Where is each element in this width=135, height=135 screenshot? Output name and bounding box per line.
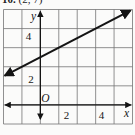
y-axis-label: y bbox=[30, 10, 37, 23]
textbook-figure: 10. (2, 7) y x O 4 2 2 4 bbox=[0, 0, 135, 135]
coordinate-grid-graph: y x O 4 2 2 4 bbox=[0, 0, 135, 135]
x-tick-label-4: 4 bbox=[99, 109, 105, 121]
origin-label: O bbox=[41, 92, 50, 104]
plotted-line bbox=[5, 11, 130, 76]
x-axis-label: x bbox=[123, 107, 130, 119]
y-tick-label-4: 4 bbox=[26, 30, 32, 42]
x-tick-label-2: 2 bbox=[64, 109, 70, 121]
y-tick-label-2: 2 bbox=[28, 73, 34, 85]
